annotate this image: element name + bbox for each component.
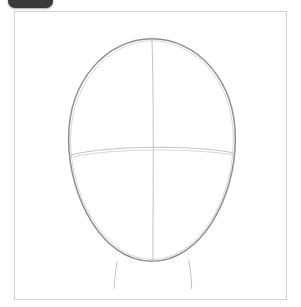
horizontal-eye-line [71,147,235,157]
vertical-center-line [152,40,153,262]
neck-line-left [114,261,117,289]
top-badge[interactable] [8,0,53,8]
sketch-canvas [15,12,286,299]
drawing-card [14,11,287,300]
neck-line-right [189,259,192,289]
